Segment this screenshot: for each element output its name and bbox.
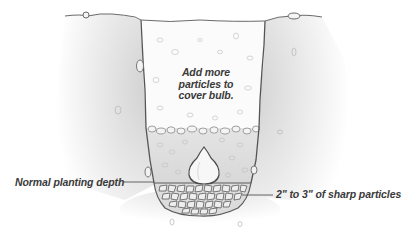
soil-left xyxy=(55,14,154,200)
planting-depth-label: Normal planting depth xyxy=(15,177,124,188)
planting-diagram: Add more particles to cover bulb. Normal… xyxy=(0,0,405,237)
fill-note-label: Add more particles to cover bulb. xyxy=(168,67,244,102)
sharp-particles-label: 2" to 3" of sharp particles xyxy=(276,189,401,200)
diagram-illustration xyxy=(0,0,405,237)
